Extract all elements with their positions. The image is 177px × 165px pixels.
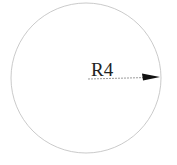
radius-label: R4 — [91, 59, 114, 80]
arrowhead-icon — [142, 74, 160, 81]
diagram-canvas: R4 — [0, 0, 177, 165]
circle-outline — [11, 3, 161, 153]
